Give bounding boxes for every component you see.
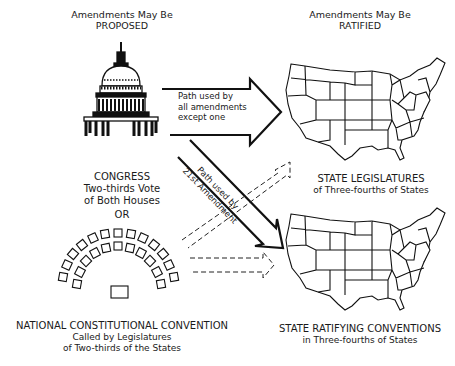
state-conventions-title: STATE RATIFYING CONVENTIONS (270, 323, 450, 335)
us-map-legislatures (286, 58, 445, 160)
main-arrow-label: Path used by all amendments except one (178, 91, 247, 123)
main-arrow-label-line3: except one (178, 112, 247, 123)
main-arrow-label-line2: all amendments (178, 102, 247, 113)
us-map-conventions (286, 208, 445, 310)
capitol-dome-icon (84, 42, 158, 136)
congress-line3: of Both Houses (62, 195, 182, 207)
state-conventions-caption: STATE RATIFYING CONVENTIONS in Three-fou… (270, 323, 450, 346)
state-legislatures-line2: of Three-fourths of States (296, 185, 446, 196)
convention-seating-icon (58, 229, 178, 298)
congress-line2: Two-thirds Vote (62, 183, 182, 195)
convention-title: NATIONAL CONSTITUTIONAL CONVENTION (4, 320, 240, 332)
state-legislatures-caption: STATE LEGISLATURES of Three-fourths of S… (296, 173, 446, 196)
dashed-arrow-to-conventions (190, 252, 274, 278)
state-conventions-line2: in Three-fourths of States (270, 335, 450, 346)
convention-caption: NATIONAL CONSTITUTIONAL CONVENTION Calle… (4, 320, 240, 354)
convention-line2: Called by Legislatures (4, 332, 240, 343)
state-legislatures-title: STATE LEGISLATURES (296, 173, 446, 185)
or-separator: OR (62, 209, 182, 221)
congress-title: CONGRESS (62, 171, 182, 183)
congress-caption: CONGRESS Two-thirds Vote of Both Houses (62, 171, 182, 207)
main-arrow-label-line1: Path used by (178, 91, 247, 102)
convention-line3: of Two-thirds of the States (4, 343, 240, 354)
